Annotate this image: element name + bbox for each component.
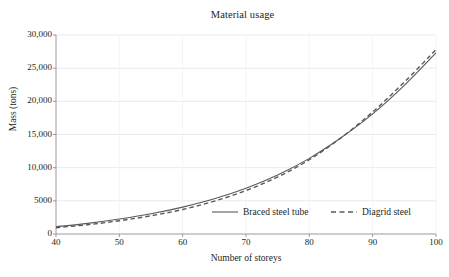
plot-area	[0, 0, 449, 277]
legend-line-dashed-icon	[331, 208, 357, 216]
legend-label-diagrid-steel: Diagrid steel	[362, 207, 411, 217]
legend-line-solid-icon	[212, 208, 238, 216]
legend-label-braced-steel-tube: Braced steel tube	[243, 207, 308, 217]
legend-item-diagrid-steel: Diagrid steel	[331, 207, 411, 217]
legend-item-braced-steel-tube: Braced steel tube	[212, 207, 308, 217]
material-usage-chart-figure: Material usage Mass (tons) 30,000 25,000…	[0, 0, 449, 277]
x-axis-label: Number of storeys	[56, 253, 436, 263]
